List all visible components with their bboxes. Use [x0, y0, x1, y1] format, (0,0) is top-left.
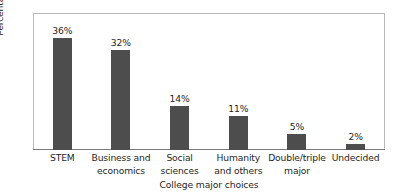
bar-group-social-sciences: 14%: [150, 13, 209, 150]
bar-value-label: 14%: [170, 93, 190, 104]
bar-value-label: 32%: [111, 37, 131, 48]
x-tick-line: Undecided: [321, 152, 391, 165]
bar-group-stem: 36%: [33, 13, 92, 150]
bar-chart: Percentage of respondents 36% 32% 14% 11…: [0, 0, 401, 195]
bar-group-business-and-economics: 32%: [92, 13, 151, 150]
bar-rect: [170, 106, 189, 150]
x-axis-tick-labels: STEM Business and economics Social scien…: [33, 152, 385, 180]
bar-rect: [229, 116, 248, 150]
bar-value-label: 2%: [348, 131, 362, 142]
bar-rect: [346, 144, 365, 150]
bar-group-humanity-and-others: 11%: [209, 13, 268, 150]
bar-value-label: 11%: [228, 103, 248, 114]
x-axis-title: College major choices: [33, 179, 385, 190]
x-tick-label-undecided: Undecided: [321, 152, 391, 165]
bar-value-label: 5%: [290, 121, 304, 132]
bar-rect: [53, 38, 72, 150]
y-axis-title: Percentage of respondents: [0, 0, 8, 45]
x-tick-line: major: [262, 165, 332, 178]
bars-layer: 36% 32% 14% 11% 5% 2%: [33, 13, 385, 150]
bar-rect: [287, 134, 306, 150]
bar-rect: [111, 50, 130, 150]
bar-group-double-triple-major: 5%: [268, 13, 327, 150]
bar-group-undecided: 2%: [326, 13, 385, 150]
bar-value-label: 36%: [52, 25, 72, 36]
